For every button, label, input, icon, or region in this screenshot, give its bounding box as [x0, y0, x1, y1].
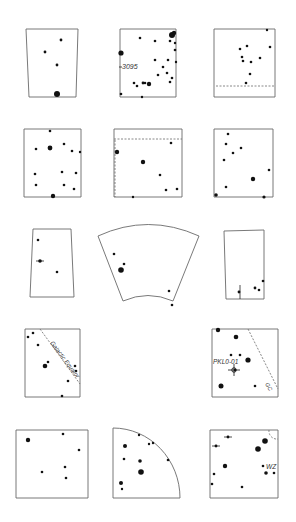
panel-frame	[214, 29, 275, 97]
star-dot	[62, 433, 65, 436]
star-dot	[249, 73, 252, 76]
star-dot	[120, 93, 123, 96]
finding-chart-panel-r4c1: Galactic Equator	[25, 329, 81, 397]
star-dot	[119, 481, 123, 485]
star-dot	[211, 483, 214, 486]
star-dot	[65, 477, 68, 480]
boundary-dashed-line	[248, 329, 278, 389]
star-dot	[262, 195, 265, 198]
star-dot	[78, 449, 81, 452]
star-dot	[239, 48, 242, 51]
star-dot	[264, 471, 268, 475]
finding-chart-panel-r2c2	[114, 129, 182, 198]
star-dot	[167, 59, 170, 62]
finding-chart-panel-r5c2	[113, 428, 180, 498]
star-dot	[118, 50, 123, 55]
star-dot	[51, 194, 55, 198]
star-dot	[133, 82, 136, 85]
star-dot	[246, 45, 249, 48]
star-dot	[166, 72, 169, 75]
star-dot	[245, 357, 250, 362]
star-dot	[234, 335, 239, 340]
star-dot	[144, 82, 147, 85]
star-dot	[48, 146, 53, 151]
star-dot	[170, 142, 173, 145]
panel-frame	[26, 29, 78, 97]
star-dot	[225, 186, 228, 189]
star-dot	[255, 446, 261, 452]
finding-chart-panel-r4c3: PKL0-01GC	[212, 328, 278, 397]
star-dot	[172, 31, 176, 35]
panel-frame	[24, 129, 81, 197]
star-dot	[41, 471, 44, 474]
star-dot	[227, 133, 230, 136]
star-dot	[27, 336, 30, 339]
star-dot	[214, 193, 218, 197]
star-dot	[123, 263, 126, 266]
star-dot	[37, 239, 40, 242]
star-dot	[230, 354, 233, 357]
star-dot	[56, 271, 59, 274]
finding-chart-panel-r2c3	[214, 129, 273, 199]
boundary-arc	[269, 430, 278, 439]
star-dot	[44, 51, 47, 54]
star-dot	[121, 488, 123, 490]
star-dot	[75, 172, 78, 175]
star-dot	[147, 82, 151, 86]
panel-frame	[113, 428, 180, 498]
finding-chart-panel-r3c2	[98, 225, 199, 307]
star-dot	[35, 148, 38, 151]
star-dot	[43, 364, 48, 369]
star-dot	[148, 443, 150, 445]
star-dot	[60, 39, 63, 42]
star-dot	[32, 332, 35, 335]
star-dot	[262, 465, 265, 468]
star-dot	[259, 57, 262, 60]
star-dot	[118, 267, 124, 273]
star-dot	[171, 77, 174, 80]
finding-chart-panel-r3c3	[224, 230, 264, 299]
star-dot	[79, 151, 81, 153]
star-dot	[63, 184, 66, 187]
star-dot	[223, 159, 226, 162]
star-dot	[34, 173, 37, 176]
finding-chart-panel-r1c2: 3095	[118, 29, 177, 98]
star-dot	[154, 59, 157, 62]
star-dot	[141, 160, 145, 164]
star-dot	[254, 385, 257, 388]
star-dot	[47, 361, 50, 364]
star-dot	[239, 354, 242, 357]
star-dot	[123, 444, 127, 448]
star-dot	[165, 189, 168, 192]
star-dot	[132, 196, 134, 198]
panel-frame	[214, 129, 273, 197]
chart-label: 3095	[122, 63, 138, 70]
star-dot	[216, 328, 220, 332]
star-dot	[171, 304, 174, 307]
star-dot	[250, 61, 253, 64]
star-dot	[227, 436, 230, 439]
star-dot	[258, 289, 261, 292]
star-dot	[38, 259, 42, 263]
star-dot	[238, 291, 241, 294]
star-dot	[175, 61, 177, 63]
star-dot	[241, 56, 244, 59]
star-dot	[136, 85, 139, 88]
star-dot	[63, 143, 66, 146]
star-dot	[215, 445, 218, 448]
finding-chart-panel-r5c1	[16, 430, 88, 498]
panel-frame	[30, 229, 74, 297]
star-dot	[225, 143, 228, 146]
star-dot	[213, 473, 216, 476]
star-dot	[162, 66, 165, 69]
star-dot	[174, 42, 176, 44]
star-dot	[240, 147, 243, 150]
star-dot	[73, 188, 76, 191]
star-dot	[232, 152, 235, 155]
star-dot	[138, 459, 142, 463]
star-dot	[49, 130, 52, 133]
star-dot	[123, 458, 126, 461]
star-dot	[169, 81, 172, 84]
star-dot	[266, 29, 268, 31]
star-dot	[174, 49, 177, 52]
